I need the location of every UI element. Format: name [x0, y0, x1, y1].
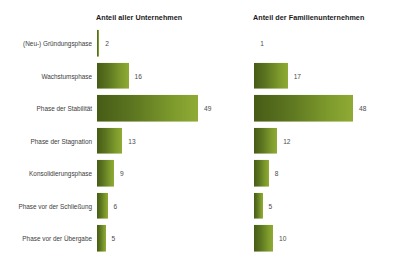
bar	[96, 62, 130, 91]
bar-row: 10	[205, 222, 393, 255]
chart-title-left: Anteil aller Unternehmen	[96, 13, 182, 22]
bar	[253, 62, 289, 91]
bar	[253, 127, 278, 156]
bar-row: 5	[205, 190, 393, 223]
bar-row: Phase der Stabilität 49	[0, 92, 205, 125]
bar-group: 13	[96, 125, 136, 158]
bar-value-label: 9	[120, 170, 124, 177]
bar	[253, 224, 274, 253]
category-label: Konsolidierungsphase	[6, 170, 92, 177]
category-label: Wachstumsphase	[6, 72, 92, 79]
category-label: Phase vor der Schließung	[6, 202, 92, 209]
bar-group: 1	[253, 27, 264, 60]
bar-value-label: 5	[112, 235, 116, 242]
bar	[253, 192, 264, 221]
bar-value-label: 6	[114, 202, 118, 209]
chart-panel-family-companies: Anteil der Familienunternehmen 1 17 48	[205, 0, 393, 262]
bar-group: 5	[96, 222, 115, 255]
bar-group: 8	[253, 157, 278, 190]
bar-row: Phase vor der Übergabe 5	[0, 222, 205, 255]
category-label: Phase der Stabilität	[6, 105, 92, 112]
bar-group: 12	[253, 125, 291, 158]
bar-row: 17	[205, 60, 393, 93]
bar-group: 5	[253, 190, 272, 223]
bar-group: 16	[96, 60, 142, 93]
chart-title-right: Anteil der Familienunternehmen	[253, 13, 364, 22]
bar-value-label: 12	[283, 137, 290, 144]
bar-row: 12	[205, 125, 393, 158]
bar-row: Phase der Stagnation 13	[0, 125, 205, 158]
bar	[96, 192, 109, 221]
category-label: (Neu-) Gründungsphase	[6, 40, 92, 47]
bar-value-label: 48	[359, 105, 366, 112]
bar-group: 49	[96, 92, 211, 125]
bar-value-label: 16	[135, 72, 142, 79]
chart-figure: Anteil aller Unternehmen (Neu-) Gründung…	[0, 0, 393, 262]
bar-value-label: 13	[128, 137, 135, 144]
category-label: Phase vor der Übergabe	[6, 235, 92, 242]
bar	[96, 29, 100, 58]
bar-row: 8	[205, 157, 393, 190]
bar-row: (Neu-) Gründungsphase 2	[0, 27, 205, 60]
bar-row: 1	[205, 27, 393, 60]
bar-group: 6	[96, 190, 117, 223]
plot-area-left: (Neu-) Gründungsphase 2 Wachstumsphase 1…	[0, 27, 205, 255]
bar-value-label: 10	[279, 235, 286, 242]
plot-area-right: 1 17 48 12	[205, 27, 393, 255]
bar	[253, 94, 354, 123]
bar	[253, 29, 255, 58]
bar	[96, 224, 107, 253]
bar-value-label: 2	[105, 40, 109, 47]
bar-row: 48	[205, 92, 393, 125]
bar-row: Phase vor der Schließung 6	[0, 190, 205, 223]
bar-row: Wachstumsphase 16	[0, 60, 205, 93]
bar-value-label: 5	[269, 202, 273, 209]
bar-value-label: 17	[294, 72, 301, 79]
bar-group: 48	[253, 92, 366, 125]
bar-group: 17	[253, 60, 301, 93]
bar	[96, 159, 115, 188]
bar-group: 2	[96, 27, 109, 60]
chart-panel-all-companies: Anteil aller Unternehmen (Neu-) Gründung…	[0, 0, 205, 262]
bar	[96, 127, 123, 156]
bar-value-label: 8	[275, 170, 279, 177]
bar	[96, 94, 199, 123]
bar-row: Konsolidierungsphase 9	[0, 157, 205, 190]
bar-group: 9	[96, 157, 124, 190]
bar-value-label: 1	[260, 40, 264, 47]
bar-group: 10	[253, 222, 286, 255]
bar	[253, 159, 270, 188]
category-label: Phase der Stagnation	[6, 137, 92, 144]
